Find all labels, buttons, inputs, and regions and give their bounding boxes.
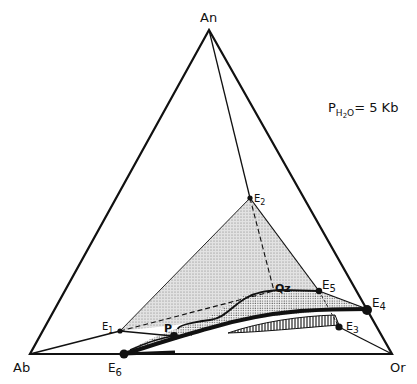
point-e3 [335, 323, 342, 330]
line-ab-e1 [30, 331, 120, 354]
point-e6 [120, 350, 129, 359]
point-e1 [117, 328, 122, 333]
point-e4 [362, 305, 372, 315]
point-e2 [247, 195, 252, 200]
line-an-e2 [209, 30, 250, 198]
vertex-label-or: Or [390, 360, 406, 375]
vertex-label-ab: Ab [13, 360, 30, 375]
label-e3: E3 [346, 320, 359, 335]
label-e4: E4 [372, 296, 386, 312]
label-p: P [164, 322, 172, 335]
vertex-label-an: An [200, 10, 217, 25]
label-e6: E6 [108, 361, 122, 378]
ternary-diagram: An Ab Or E2 E1 E5 E4 E3 E6 Qz P PH2O= 5 … [0, 0, 417, 384]
label-e5: E5 [322, 278, 336, 294]
pressure-condition-label: PH2O= 5 Kb [328, 100, 398, 120]
label-qz: Qz [275, 282, 291, 295]
base-thick-segment [124, 352, 175, 354]
label-e1: E1 [102, 321, 113, 335]
